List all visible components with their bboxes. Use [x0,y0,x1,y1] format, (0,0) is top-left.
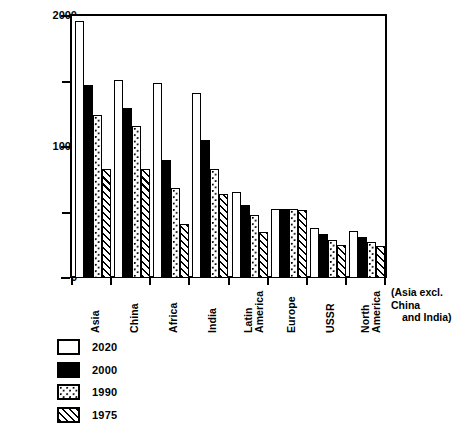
bar [358,237,367,278]
x-cat-label-latin-america: LatinAmerica [243,291,265,333]
legend-item-2020: 2020 [57,337,117,357]
y-tick-major-0 [61,277,70,279]
bar [180,224,189,278]
axis-annotation-line-1: (Asia excl. China [391,286,443,311]
chart-legend: 2020200019901975 [57,337,117,425]
bar [280,209,289,278]
x-cat-label-line: America [371,291,382,333]
bar [219,194,228,278]
legend-swatch-2020 [57,339,80,355]
bar [114,80,123,278]
x-cat-label-asia: Asia [89,310,101,333]
x-cat-label-line: America [254,291,265,333]
legend-label-1975: 1975 [92,409,117,421]
bar [102,169,111,278]
x-cat-label-line: India [206,308,218,333]
bar-group [192,16,228,278]
bar [210,169,219,278]
bar [298,210,307,278]
bar-group [75,16,111,278]
x-cat-label-line: Latin [243,291,254,333]
bar [241,205,250,278]
x-cat-label-europe: Europe [285,296,297,333]
x-cat-label-line: USSR [324,303,336,333]
x-tick [306,278,308,285]
y-tick-minor-1500 [62,81,70,83]
bar [337,245,346,278]
bar [349,231,358,278]
legend-label-1990: 1990 [92,386,117,398]
legend-item-2000: 2000 [57,360,117,380]
x-tick [71,278,73,285]
axis-annotation-line-2: and India) [391,311,471,324]
x-cat-label-north-america: NorthAmerica [360,291,382,333]
bar [376,246,385,278]
x-cat-label-line: Asia [89,310,101,333]
legend-swatch-2000 [57,362,80,378]
bar [328,240,337,278]
x-tick [228,278,230,285]
x-tick [384,278,386,285]
x-tick [188,278,190,285]
plot-area [72,16,385,278]
bar [123,108,132,278]
bar-group [310,16,346,278]
bar [319,234,328,278]
bar [201,140,210,278]
bar [232,192,241,278]
x-cat-label-africa: Africa [167,303,179,333]
legend-swatch-1975 [57,407,80,423]
bar [132,126,141,278]
bar [259,232,268,278]
bar [141,169,150,278]
legend-swatch-1990 [57,384,80,400]
x-cat-label-india: India [206,308,218,333]
x-tick [345,278,347,285]
bar [310,228,319,278]
bar [171,188,180,278]
bar [84,85,93,278]
bar-group [349,16,385,278]
bar-group [153,16,189,278]
legend-item-1990: 1990 [57,382,117,402]
population-bar-chart: Population (millions) 010002000 AsiaChin… [0,0,471,425]
axis-annotation: (Asia excl. China and India) [391,286,471,324]
x-cat-label-line: Europe [285,296,297,333]
x-cat-label-line: China [128,303,140,333]
x-tick [110,278,112,285]
y-tick-minor-500 [62,212,70,214]
bar [367,242,376,278]
bar [93,115,102,278]
x-cat-label-china: China [128,303,140,333]
bar [289,209,298,278]
x-cat-label-ussr: USSR [324,303,336,333]
legend-label-2020: 2020 [92,341,117,353]
bar [75,21,84,278]
bar-group [232,16,268,278]
bar [162,160,171,278]
bar [192,93,201,278]
bar [250,215,259,278]
bar-group [271,16,307,278]
x-tick [149,278,151,285]
x-tick [267,278,269,285]
x-cat-label-line: Africa [167,303,179,333]
bar [153,83,162,278]
bar [271,209,280,278]
bar-group [114,16,150,278]
legend-item-1975: 1975 [57,405,117,425]
legend-label-2000: 2000 [92,364,117,376]
